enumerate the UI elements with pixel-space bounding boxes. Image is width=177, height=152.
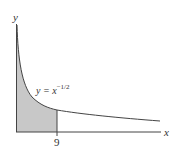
function-label-exponent: −1/2 [57, 83, 70, 91]
tick-label-9: 9 [54, 137, 60, 148]
function-label-base: y = x [36, 85, 57, 96]
shaded-region [17, 25, 58, 132]
x-axis-label: x [164, 127, 169, 138]
graph [0, 0, 177, 152]
y-axis-label: y [13, 12, 18, 23]
function-label: y = x−1/2 [36, 84, 70, 96]
